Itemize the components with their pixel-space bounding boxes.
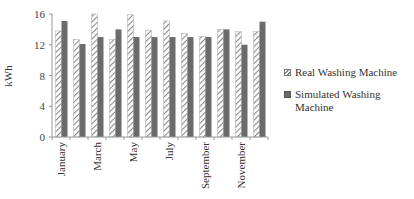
bars bbox=[56, 14, 266, 137]
x-category-label: July bbox=[163, 142, 175, 161]
y-axis-ticks: 0481216 bbox=[34, 8, 52, 143]
bar-simulated bbox=[224, 29, 230, 137]
bar-simulated bbox=[116, 29, 122, 137]
bar-simulated bbox=[80, 44, 86, 137]
legend-item-real: Real Washing Machine bbox=[284, 66, 414, 79]
hatched-swatch-icon bbox=[284, 69, 291, 76]
bar-simulated bbox=[206, 37, 212, 137]
bar-simulated bbox=[98, 37, 104, 137]
bar-simulated bbox=[170, 37, 176, 137]
x-category-label: May bbox=[127, 142, 139, 163]
x-category-label: November bbox=[235, 142, 247, 189]
bar-simulated bbox=[260, 22, 266, 137]
legend: Real Washing Machine Simulated Washing M… bbox=[284, 66, 414, 123]
bar-real bbox=[110, 39, 116, 137]
bar-real bbox=[146, 30, 152, 137]
bar-real bbox=[74, 39, 80, 137]
y-tick-label: 8 bbox=[40, 70, 46, 82]
y-tick-label: 0 bbox=[40, 131, 46, 143]
bar-real bbox=[200, 36, 206, 137]
legend-label-real: Real Washing Machine bbox=[295, 66, 397, 79]
bar-real bbox=[182, 33, 188, 137]
bar-simulated bbox=[62, 21, 68, 137]
bar-real bbox=[56, 31, 62, 137]
solid-swatch-icon bbox=[284, 91, 291, 98]
bar-real bbox=[254, 32, 260, 137]
x-category-label: March bbox=[91, 142, 103, 171]
bar-simulated bbox=[242, 45, 248, 137]
y-axis-title: kWh bbox=[2, 65, 14, 87]
legend-label-simulated: Simulated Washing Machine bbox=[295, 88, 380, 114]
bar-real bbox=[218, 29, 224, 137]
bar-simulated bbox=[152, 37, 158, 137]
y-tick-label: 4 bbox=[40, 100, 46, 112]
bar-real bbox=[164, 21, 170, 137]
bar-real bbox=[92, 14, 98, 137]
bar-real bbox=[236, 32, 242, 137]
x-category-label: September bbox=[199, 142, 211, 189]
y-tick-label: 16 bbox=[34, 8, 46, 20]
x-axis-ticks: JanuaryMarchMayJulySeptemberNovember bbox=[52, 137, 268, 189]
bar-simulated bbox=[188, 37, 194, 137]
bar-simulated bbox=[134, 37, 140, 137]
y-tick-label: 12 bbox=[34, 39, 45, 51]
legend-item-simulated: Simulated Washing Machine bbox=[284, 88, 414, 114]
x-category-label: January bbox=[55, 142, 67, 177]
bar-real bbox=[128, 15, 134, 137]
